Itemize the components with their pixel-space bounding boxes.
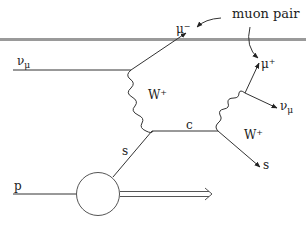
feynman-diagram bbox=[0, 0, 306, 226]
label-mu-subscript: μ bbox=[287, 105, 293, 115]
annotation-muon-pair: muon pair bbox=[232, 8, 299, 20]
label-proton: p bbox=[14, 180, 22, 192]
label-outgoing-neutrino: νμ bbox=[280, 100, 293, 113]
label-plus-superscript: + bbox=[269, 57, 276, 66]
outgoing-neutrino-line bbox=[245, 93, 277, 108]
separator-bar bbox=[0, 38, 306, 41]
strange-quark-line bbox=[113, 131, 152, 177]
label-plus-superscript: + bbox=[160, 88, 167, 97]
label-muon-minus: μ− bbox=[176, 23, 191, 37]
label-incoming-neutrino: νμ bbox=[17, 55, 30, 68]
label-w-boson-left: W+ bbox=[148, 89, 167, 103]
proton-blob bbox=[77, 173, 120, 216]
label-charm-quark: c bbox=[186, 119, 193, 131]
label-w-boson-right: W+ bbox=[244, 129, 263, 143]
label-strange-quark-out: s bbox=[263, 159, 269, 171]
label-mu-subscript: μ bbox=[24, 60, 30, 70]
label-minus-superscript: − bbox=[184, 22, 191, 31]
muon-plus-line bbox=[245, 63, 259, 93]
label-strange-quark-in: s bbox=[122, 145, 128, 157]
label-mu: μ bbox=[261, 57, 269, 71]
proton-remnant-arrow bbox=[120, 188, 212, 200]
label-w: W bbox=[244, 128, 256, 142]
w-boson-right-wavy-line bbox=[216, 91, 245, 131]
label-w: W bbox=[148, 88, 160, 102]
annotation-arrow-to-muon-plus bbox=[249, 27, 258, 58]
label-plus-superscript: + bbox=[256, 128, 263, 137]
label-mu: μ bbox=[176, 22, 184, 36]
annotation-arrow-to-muon-minus bbox=[197, 18, 221, 27]
label-muon-plus: μ+ bbox=[261, 58, 276, 72]
